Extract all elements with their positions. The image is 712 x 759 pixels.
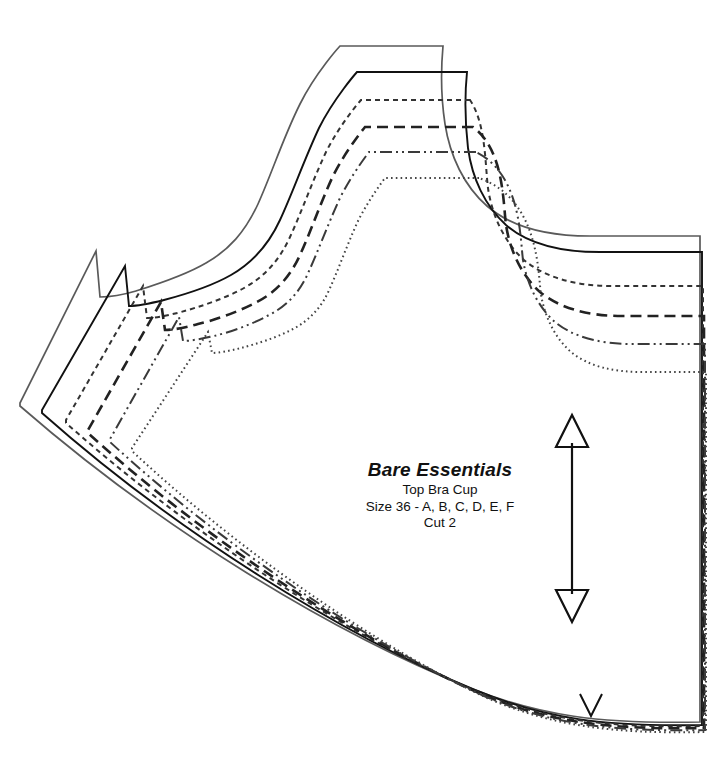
pattern-piece-name: Top Bra Cup (330, 482, 550, 498)
size-line-B (110, 152, 705, 730)
grainline-arrowhead-down (556, 590, 588, 622)
notch-mark (580, 694, 602, 716)
size-lines-group (20, 46, 706, 732)
grainline-arrow (556, 415, 588, 622)
pattern-label-block: Bare Essentials Top Bra Cup Size 36 - A,… (330, 458, 550, 532)
size-line-E (42, 72, 702, 725)
size-line-C (88, 127, 704, 728)
pattern-drawing (0, 0, 712, 759)
notch-v-shape (580, 694, 602, 716)
pattern-size-range: Size 36 - A, B, C, D, E, F (330, 499, 550, 515)
pattern-brand-title: Bare Essentials (330, 458, 550, 481)
size-line-D (66, 100, 703, 726)
size-line-A (132, 178, 706, 732)
pattern-cut-count: Cut 2 (330, 515, 550, 531)
size-line-F (20, 46, 700, 722)
pattern-sheet: Bare Essentials Top Bra Cup Size 36 - A,… (0, 0, 712, 759)
grainline-arrowhead-up (556, 415, 588, 447)
